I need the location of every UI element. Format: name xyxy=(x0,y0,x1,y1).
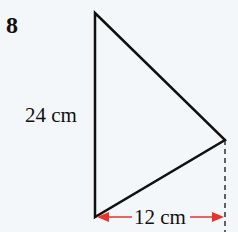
triangle xyxy=(95,13,225,217)
base-label: 12 cm xyxy=(134,205,186,230)
height-label: 24 cm xyxy=(25,103,77,128)
